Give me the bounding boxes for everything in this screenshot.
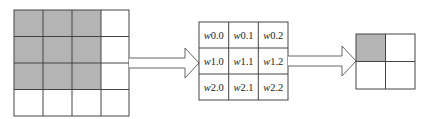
kernel-cell: w1.1 (233, 56, 253, 67)
arrow-right-icon (288, 46, 356, 76)
kernel-cell: w1.2 (263, 56, 283, 67)
kernel-cell: w0.0 (204, 30, 224, 41)
arrow-right-icon (129, 48, 199, 78)
input-grid (14, 10, 129, 116)
convolution-diagram: w0.0 w0.1 w0.2 w1.0 w1.1 w1.2 w2.0 w2.1 … (0, 0, 427, 119)
kernel-cell: w0.1 (233, 30, 253, 41)
kernel-cell: w2.2 (263, 82, 283, 93)
kernel-cell: w2.0 (204, 82, 224, 93)
kernel-cell: w2.1 (233, 82, 253, 93)
output-grid (356, 34, 415, 89)
input-shaded-region (14, 10, 101, 90)
kernel-cell: w0.2 (263, 30, 283, 41)
output-shaded-cell (356, 34, 386, 62)
kernel-cell: w1.0 (204, 56, 224, 67)
kernel-grid: w0.0 w0.1 w0.2 w1.0 w1.1 w1.2 w2.0 w2.1 … (199, 22, 288, 100)
